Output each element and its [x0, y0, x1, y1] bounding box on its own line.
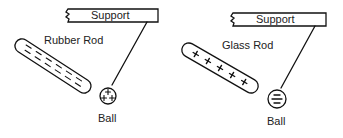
left-ball-label: Ball [98, 113, 116, 124]
right-ball-negative-charges [272, 95, 282, 103]
rubber-rod-negative-charges [23, 45, 83, 86]
right-ball-label: Ball [267, 116, 285, 127]
glass-rod-label: Glass Rod [222, 40, 273, 51]
right-string [281, 26, 315, 88]
electrostatics-diagram: Support Rubber Rod Ball Support Glass Ro… [0, 0, 343, 138]
left-string [112, 22, 147, 85]
left-ball-positive-charges [102, 90, 115, 101]
rubber-rod-label: Rubber Rod [44, 35, 103, 46]
glass-rod-positive-charges [192, 50, 249, 86]
right-support-label: Support [256, 14, 295, 25]
left-support-label: Support [91, 10, 130, 21]
